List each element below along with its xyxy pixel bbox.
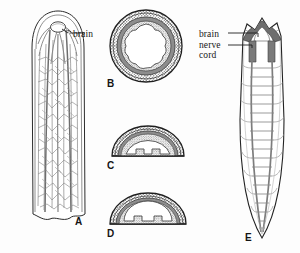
panel-b-circular-section [110,10,182,82]
panel-c-dome-section [112,126,184,156]
panel-d-dome-section [110,193,186,224]
label-nerve-panel-e: nerve [199,40,221,51]
panel-a-nerve-net [32,11,85,219]
panel-a-brain [51,22,66,32]
panel-letter-a: A [75,216,82,227]
figure-canvas [0,0,300,253]
label-brain-panel-a: brain [73,29,93,40]
anatomy-figure: brain brain nerve cord A B C D E [0,0,300,253]
panel-letter-c: C [107,160,114,171]
panel-letter-b: B [107,78,114,89]
label-cord-panel-e: cord [199,50,216,61]
panel-letter-e: E [245,232,252,243]
label-brain-panel-e: brain [199,29,219,40]
panel-letter-d: D [107,228,114,239]
panel-e-ladder-system [228,14,285,238]
